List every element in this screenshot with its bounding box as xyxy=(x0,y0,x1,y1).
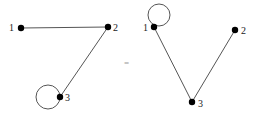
edge-1-3 xyxy=(154,27,192,102)
node-2 xyxy=(232,27,238,33)
loop-3 xyxy=(36,85,60,109)
equals-sign: = xyxy=(124,58,129,68)
node-label-3: 3 xyxy=(65,92,70,103)
node-label-1: 1 xyxy=(9,22,14,33)
node-label-2: 2 xyxy=(241,25,246,36)
left-graph: 1 2 3 xyxy=(9,22,118,109)
node-1 xyxy=(18,25,24,31)
node-label-1: 1 xyxy=(143,22,148,33)
edge-2-3 xyxy=(192,30,235,102)
edge-1-2 xyxy=(21,27,108,28)
edge-2-3 xyxy=(60,27,108,97)
graph-equality-diagram: 1 2 3 = 1 2 3 xyxy=(0,0,254,117)
node-3 xyxy=(189,99,195,105)
loop-1 xyxy=(148,4,170,26)
node-2 xyxy=(105,24,111,30)
node-label-2: 2 xyxy=(113,22,118,33)
node-3 xyxy=(57,94,63,100)
node-label-3: 3 xyxy=(198,98,203,109)
right-graph: 1 2 3 xyxy=(143,4,246,109)
node-1 xyxy=(151,24,157,30)
